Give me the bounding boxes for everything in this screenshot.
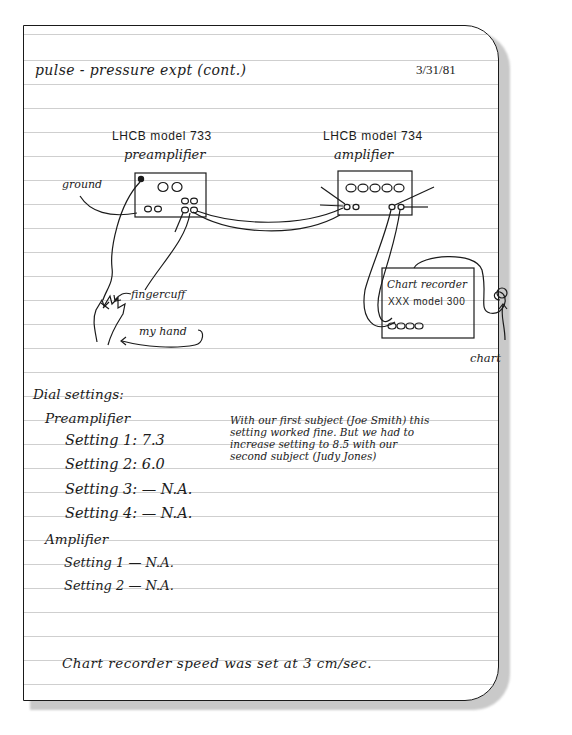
note-line-2: setting worked fine. But we had to <box>230 426 414 438</box>
dial-settings-heading: Dial settings: <box>33 386 124 402</box>
preamp-dial-1 <box>158 183 168 192</box>
preamp-jack-1 <box>145 206 152 212</box>
preamp-jack-3 <box>182 198 189 204</box>
note-line-1: With our first subject (Joe Smith) this <box>230 414 429 426</box>
preamp-setting-3: Setting 3: — N.A. <box>65 481 192 497</box>
wiring-diagram <box>0 0 572 735</box>
amp-setting-2: Setting 2 — N.A. <box>64 578 174 593</box>
preamp-jack-4 <box>191 198 198 204</box>
preamp-jack-2 <box>155 206 162 212</box>
recorder-speed-note: Chart recorder speed was set at 3 cm/sec… <box>62 655 372 671</box>
amplifier-heading: Amplifier <box>45 531 108 547</box>
preamp-ground-terminal <box>138 176 143 181</box>
amp-setting-1: Setting 1 — N.A. <box>64 555 174 570</box>
preamp-setting-4: Setting 4: — N.A. <box>65 505 192 521</box>
chart-paper <box>414 257 505 314</box>
preamp-box <box>135 173 206 217</box>
preamp-jack-5 <box>182 207 189 213</box>
note-line-3: increase setting to 8.5 with our <box>230 438 397 450</box>
preamp-dial-2 <box>172 183 182 192</box>
note-line-4: second subject (Judy Jones) <box>230 450 376 462</box>
preamplifier-heading: Preamplifier <box>45 410 130 426</box>
hand-drawing <box>94 296 125 345</box>
preamp-setting-1: Setting 1: 7.3 <box>65 432 165 448</box>
preamp-setting-2: Setting 2: 6.0 <box>65 456 165 472</box>
